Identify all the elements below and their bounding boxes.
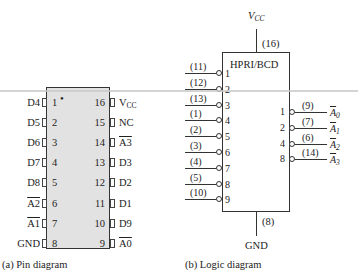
input-index: 7	[225, 163, 230, 175]
left-pin-number: 6	[52, 198, 57, 210]
pin-lead	[42, 118, 47, 127]
right-pin-number: 16	[95, 97, 106, 109]
input-wire	[185, 184, 216, 185]
input-index: 4	[225, 115, 230, 127]
right-pin-number: 11	[95, 198, 105, 210]
right-pin-label: A3	[119, 137, 132, 149]
input-pin-number: (1)	[190, 108, 202, 120]
pin-lead	[42, 199, 47, 208]
right-pin-label: A0	[119, 238, 132, 250]
input-wire	[185, 199, 216, 200]
active-low-bubble-icon	[216, 117, 222, 123]
gnd-label: GND	[245, 240, 268, 252]
pin-lead	[42, 219, 47, 228]
pin-lead	[110, 199, 115, 208]
pin-lead	[110, 138, 115, 147]
right-pin-label: D9	[119, 218, 132, 230]
vcc-label: VCC	[248, 10, 264, 25]
active-low-bubble-icon	[216, 133, 222, 139]
scan-line	[0, 90, 358, 92]
left-pin-label: D5	[27, 117, 40, 129]
gnd-wire	[256, 212, 257, 236]
block-title: HPRI/BCD	[230, 59, 278, 71]
pin-lead	[110, 158, 115, 167]
input-wire	[185, 152, 216, 153]
input-wire	[185, 73, 216, 74]
input-index: 8	[225, 179, 230, 191]
input-wire	[185, 136, 216, 137]
pin-lead	[110, 178, 115, 187]
output-weight: 4	[280, 138, 285, 150]
input-pin-number: (13)	[190, 93, 207, 105]
input-wire	[185, 168, 216, 169]
pin-lead	[42, 98, 47, 107]
active-low-bubble-icon	[216, 165, 222, 171]
right-pin-number: 10	[95, 218, 106, 230]
pin-lead	[110, 239, 115, 248]
input-wire	[185, 120, 216, 121]
left-pin-number: 5	[52, 177, 57, 189]
output-pin-number: (7)	[302, 116, 314, 128]
input-index: 9	[225, 194, 230, 206]
left-pin-label: D4	[27, 97, 40, 109]
vcc-pin-number: (16)	[262, 38, 280, 50]
pin-lead	[42, 138, 47, 147]
output-weight: 2	[280, 122, 285, 134]
output-pin-number: (9)	[302, 100, 314, 112]
output-weight: 8	[280, 153, 285, 165]
output-label: A2	[330, 139, 340, 154]
right-pin-label: VCC	[119, 97, 137, 112]
active-low-bubble-icon	[216, 181, 222, 187]
left-pin-label: A2	[27, 198, 40, 210]
input-index: 1	[225, 68, 230, 80]
input-pin-number: (4)	[190, 156, 202, 168]
input-pin-number: (11)	[190, 61, 206, 73]
active-low-bubble-icon	[216, 196, 222, 202]
pin1-dot: •	[60, 92, 64, 104]
input-index: 5	[225, 131, 230, 143]
right-pin-number: 14	[95, 137, 106, 149]
output-label: A1	[330, 123, 340, 138]
right-pin-number: 13	[95, 157, 106, 169]
left-pin-number: 1	[52, 97, 57, 109]
vcc-wire	[256, 29, 257, 52]
output-pin-number: (6)	[302, 132, 314, 144]
output-wire	[295, 128, 327, 129]
left-pin-number: 3	[52, 137, 57, 149]
active-low-bubble-icon	[216, 102, 222, 108]
right-pin-number: 9	[100, 238, 105, 250]
right-pin-label: D3	[119, 157, 132, 169]
left-pin-number: 4	[52, 157, 57, 169]
pin-diagram-caption: (a) Pin diagram	[2, 259, 67, 271]
left-pin-number: 7	[52, 218, 57, 230]
active-low-bubble-icon	[216, 149, 222, 155]
input-index: 6	[225, 147, 230, 159]
left-pin-number: 2	[52, 117, 57, 129]
gnd-pin-number: (8)	[262, 216, 274, 228]
output-pin-number: (14)	[302, 147, 319, 159]
input-pin-number: (2)	[190, 124, 202, 136]
output-wire	[295, 144, 327, 145]
logic-diagram-caption: (b) Logic diagram	[185, 259, 261, 271]
pin-lead	[42, 239, 47, 248]
pin-lead	[110, 118, 115, 127]
input-pin-number: (12)	[190, 77, 207, 89]
right-pin-number: 12	[95, 177, 106, 189]
active-low-bubble-icon	[216, 70, 222, 76]
input-pin-number: (10)	[190, 187, 207, 199]
left-pin-label: D8	[27, 177, 40, 189]
left-pin-number: 8	[52, 238, 57, 250]
right-pin-label: D1	[119, 198, 132, 210]
left-pin-label: D6	[27, 137, 40, 149]
input-index: 3	[225, 100, 230, 112]
pin-lead	[110, 219, 115, 228]
input-pin-number: (5)	[190, 172, 202, 184]
input-pin-number: (3)	[190, 140, 202, 152]
output-label: A0	[330, 107, 340, 122]
left-pin-label: GND	[17, 238, 40, 250]
right-pin-label: D2	[119, 177, 132, 189]
input-wire	[185, 105, 216, 106]
output-label: A3	[330, 154, 340, 169]
left-pin-label: A1	[27, 218, 40, 230]
pin-lead	[42, 158, 47, 167]
